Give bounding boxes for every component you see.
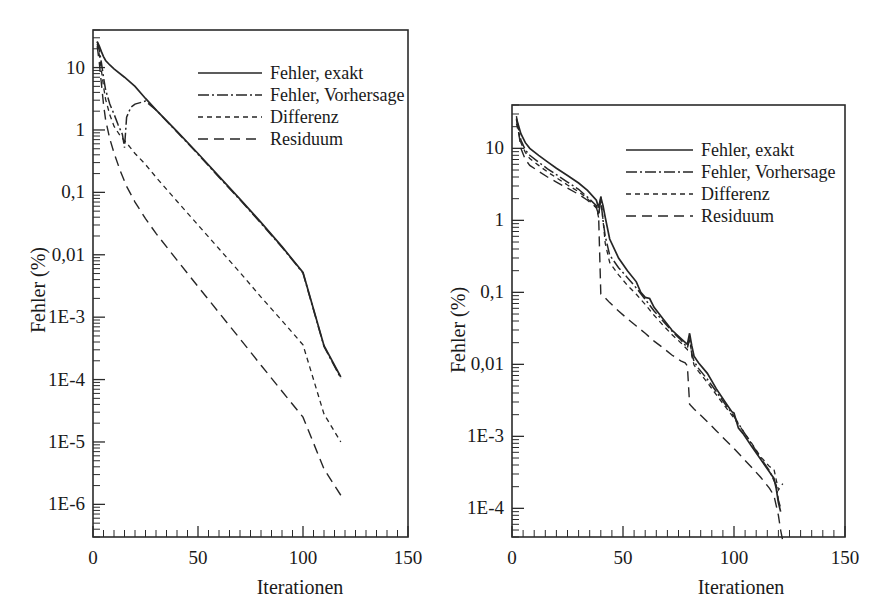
left-xtick-100: 100 xyxy=(289,547,318,568)
right-ytick-0: 10 xyxy=(485,137,504,158)
left-xtick-0: 0 xyxy=(88,547,98,568)
figure-two-panel-convergence-plot: 0501001501010,10,011E-31E-41E-51E-6 Fehl… xyxy=(0,0,883,603)
left-legend-label-residuum: Residuum xyxy=(270,129,343,149)
chart-panel-left: 0501001501010,10,011E-31E-41E-51E-6 Fehl… xyxy=(0,0,441,603)
left-legend: Fehler, exakt Fehler, Vorhersage Differe… xyxy=(198,63,405,149)
left-y-axis-title: Fehler (%) xyxy=(27,247,50,333)
right-y-axis-title: Fehler (%) xyxy=(447,287,470,373)
right-tick-labels: 0501001501010,10,011E-31E-4 xyxy=(467,137,859,568)
right-xtick-150: 150 xyxy=(831,547,860,568)
right-legend-label-residuum: Residuum xyxy=(701,206,774,226)
left-tick-labels: 0501001501010,10,011E-31E-41E-51E-6 xyxy=(48,57,422,568)
chart-panel-right: 0501001501010,10,011E-31E-4 Fehler (%) I… xyxy=(441,0,883,603)
right-ytick-4: 1E-3 xyxy=(467,425,504,446)
left-plot-frame xyxy=(93,30,408,537)
right-xtick-100: 100 xyxy=(720,547,749,568)
right-ytick-1: 1 xyxy=(495,209,505,230)
left-legend-label-differenz: Differenz xyxy=(270,107,339,127)
left-ytick-4: 1E-3 xyxy=(48,306,85,327)
left-x-axis-title: Iterationen xyxy=(257,576,344,598)
left-ytick-2: 0,1 xyxy=(61,181,85,202)
right-plot-svg: 0501001501010,10,011E-31E-4 Fehler (%) I… xyxy=(441,0,883,603)
right-legend: Fehler, exakt Fehler, Vorhersage Differe… xyxy=(626,140,836,226)
right-ytick-5: 1E-4 xyxy=(467,497,504,518)
left-axis-minor-ticks xyxy=(93,30,408,537)
right-ytick-2: 0,1 xyxy=(480,281,504,302)
left-plot-svg: 0501001501010,10,011E-31E-41E-51E-6 Fehl… xyxy=(0,0,441,603)
right-x-axis-title: Iterationen xyxy=(698,576,785,598)
right-legend-label-fehler-exakt: Fehler, exakt xyxy=(701,140,794,160)
left-ytick-3: 0,01 xyxy=(52,244,85,265)
left-ytick-1: 1 xyxy=(76,119,86,140)
left-xtick-50: 50 xyxy=(189,547,208,568)
left-ytick-0: 10 xyxy=(66,57,85,78)
left-legend-label-fehler-vorhersage: Fehler, Vorhersage xyxy=(270,85,405,105)
right-ytick-3: 0,01 xyxy=(471,353,504,374)
left-ytick-5: 1E-4 xyxy=(48,369,85,390)
left-xtick-150: 150 xyxy=(394,547,423,568)
left-legend-label-fehler-exakt: Fehler, exakt xyxy=(270,63,363,83)
right-xtick-50: 50 xyxy=(614,547,633,568)
right-xtick-0: 0 xyxy=(507,547,517,568)
right-legend-label-differenz: Differenz xyxy=(701,184,770,204)
left-ytick-7: 1E-6 xyxy=(48,493,85,514)
right-legend-label-fehler-vorhersage: Fehler, Vorhersage xyxy=(701,162,836,182)
left-ytick-6: 1E-5 xyxy=(48,431,85,452)
